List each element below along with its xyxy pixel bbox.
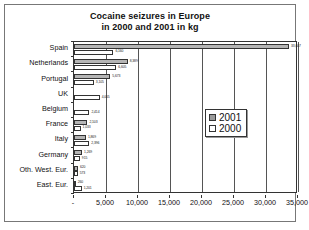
category-label-uk: UK (58, 90, 68, 98)
plot-area: 33,6076,1608,3896,6055,6733,1054,0052,41… (73, 41, 297, 193)
bar-2000-france[interactable] (74, 126, 81, 131)
value-tick-label: 20,000 (190, 198, 212, 207)
legend-swatch-2001-icon (209, 114, 216, 121)
category-label-italy: Italy (55, 135, 68, 143)
bar-value-label: 620 (80, 165, 85, 169)
category-label-germany: Germany (38, 151, 68, 159)
bar-2001-italy[interactable] (74, 135, 86, 140)
category-axis: SpainNetherlandsPortugalUKBelgiumFranceI… (5, 41, 71, 193)
bar-row: 620573 (74, 164, 296, 179)
bar-value-label: 2,396 (91, 141, 99, 145)
bar-2001-netherlands[interactable] (74, 59, 128, 64)
bar-value-label: 2,103 (89, 120, 97, 124)
value-tick-label: 25,000 (222, 198, 244, 207)
bar-value-label: 260 (78, 180, 83, 184)
category-label-france: France (46, 120, 68, 128)
legend-label-2001: 2001 (219, 112, 241, 123)
bar-2000-netherlands[interactable] (74, 65, 116, 70)
bar-value-label: 1,201 (84, 186, 92, 190)
chart-legend[interactable]: 2001 2000 (205, 109, 247, 137)
bar-2000-oth-west-eur[interactable] (74, 171, 78, 176)
category-label-netherlands: Netherlands (29, 59, 68, 67)
legend-item-2001[interactable]: 2001 (209, 112, 241, 123)
bar-row: 2,414 (74, 103, 296, 118)
value-tick-label: - (72, 198, 74, 207)
bar-2001-france[interactable] (74, 120, 87, 125)
bar-row: 8,3896,605 (74, 57, 296, 72)
bar-2001-east-eur[interactable] (74, 181, 76, 186)
category-label-spain: Spain (50, 44, 68, 52)
chart-title-line-1: Cocaine seizures in Europe (5, 11, 295, 22)
bar-value-label: 6,605 (118, 65, 126, 69)
bar-2000-portugal[interactable] (74, 80, 94, 85)
value-tick-label: 5,000 (96, 198, 114, 207)
bar-2001-spain[interactable] (74, 44, 289, 49)
bar-2001-oth-west-eur[interactable] (74, 166, 78, 171)
bar-value-label: 573 (80, 171, 85, 175)
category-label-east-eur: East. Eur. (37, 181, 68, 189)
value-axis: -5,00010,00015,00020,00025,00030,00035,0… (73, 195, 297, 213)
bar-row: 1,269915 (74, 148, 296, 163)
chart-title-line-2: in 2000 and 2001 in kg (5, 22, 295, 33)
bar-row: 4,005 (74, 88, 296, 103)
bar-value-label: 8,389 (130, 59, 138, 63)
bar-2001-germany[interactable] (74, 150, 82, 155)
gridline-35000 (298, 42, 299, 192)
bar-row: 33,6076,160 (74, 42, 296, 57)
legend-swatch-2000-icon (209, 125, 216, 132)
bar-2000-italy[interactable] (74, 141, 89, 146)
value-tick-label: 15,000 (158, 198, 180, 207)
value-tick-label: 30,000 (254, 198, 276, 207)
category-label-oth-west-eur: Oth. West. Eur. (19, 166, 68, 174)
bar-row: 1,8692,396 (74, 133, 296, 148)
bar-value-label: 6,160 (115, 49, 123, 53)
bar-value-label: 1,269 (84, 150, 92, 154)
bar-row: 2,1031,033 (74, 118, 296, 133)
bar-value-label: 3,105 (96, 80, 104, 84)
bar-2000-belgium[interactable] (74, 110, 89, 115)
chart-frame: Cocaine seizures in Europe in 2000 and 2… (4, 4, 296, 222)
bar-value-label: 2,414 (91, 110, 99, 114)
bar-value-label: 4,005 (102, 95, 110, 99)
bar-2000-spain[interactable] (74, 50, 113, 55)
category-label-belgium: Belgium (42, 105, 68, 113)
bar-value-label: 5,673 (112, 74, 120, 78)
legend-item-2000[interactable]: 2000 (209, 123, 241, 134)
bar-value-label: 1,869 (88, 135, 96, 139)
bar-2000-germany[interactable] (74, 156, 80, 161)
legend-label-2000: 2000 (219, 123, 241, 134)
bar-2000-east-eur[interactable] (74, 186, 82, 191)
category-label-portugal: Portugal (41, 75, 68, 83)
bar-value-label: 33,607 (291, 44, 301, 48)
bar-rows: 33,6076,1608,3896,6055,6733,1054,0052,41… (74, 42, 296, 192)
bar-value-label: 1,033 (83, 125, 91, 129)
bar-2000-uk[interactable] (74, 95, 100, 100)
bar-2001-portugal[interactable] (74, 74, 110, 79)
value-tick-label: 10,000 (126, 198, 148, 207)
bar-value-label: 915 (82, 156, 87, 160)
bar-row: 2601,201 (74, 179, 296, 194)
chart-title: Cocaine seizures in Europe in 2000 and 2… (5, 11, 295, 33)
bar-row: 5,6733,105 (74, 72, 296, 87)
value-tick-label: 35,000 (286, 198, 305, 207)
